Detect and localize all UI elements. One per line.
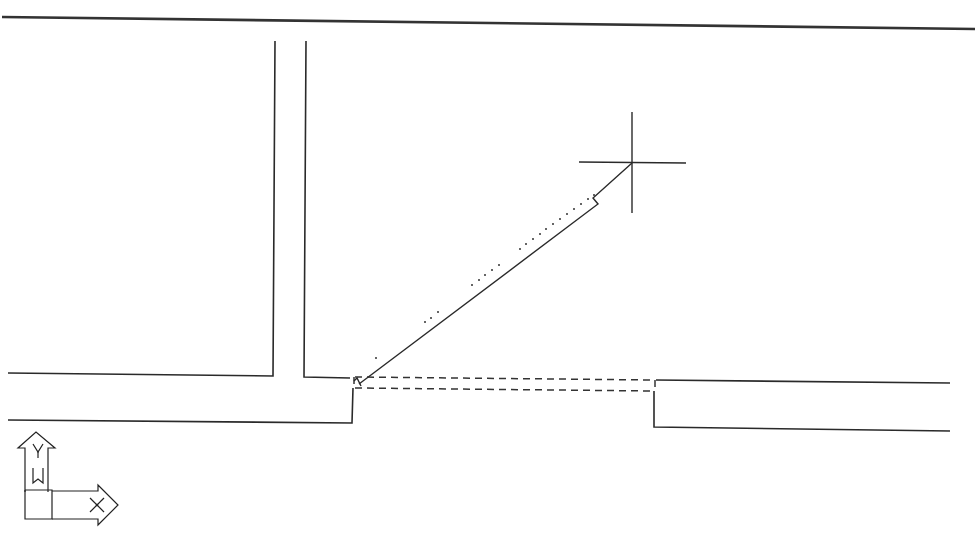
right-lower-wall[interactable] (654, 391, 950, 431)
corridor-right-wall[interactable] (304, 41, 350, 378)
drawing-border-line[interactable] (2, 17, 975, 29)
rubber-band-line (359, 163, 632, 384)
left-lower-wall[interactable] (8, 388, 353, 423)
ucs-y-arrow-icon (18, 432, 55, 492)
ucs-x-arrow-icon (52, 485, 118, 525)
opening-bottom-edge[interactable] (355, 388, 655, 391)
right-upper-wall[interactable] (656, 380, 950, 383)
tracking-dots (375, 194, 595, 359)
model-space[interactable] (0, 0, 976, 548)
crosshair-cursor-icon (579, 112, 686, 213)
ucs-icon[interactable] (18, 432, 118, 525)
drawing-canvas[interactable] (0, 0, 976, 548)
ucs-y-glyph (33, 444, 43, 452)
start-grip-icon (354, 378, 361, 386)
corridor-left-wall[interactable] (8, 41, 275, 376)
ucs-w-glyph (33, 468, 43, 483)
opening-top-edge[interactable] (355, 377, 655, 380)
ucs-origin-box (25, 490, 52, 519)
